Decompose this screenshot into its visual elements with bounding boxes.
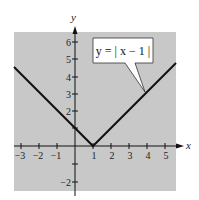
svg-text:−1: −1: [51, 150, 62, 161]
graph: −3 −2 −1 1 2 3 4 5 6 5 4 3 2 −2 y x y = …: [0, 0, 199, 200]
y-axis-arrow-icon: [73, 26, 78, 34]
svg-text:5: 5: [164, 150, 169, 161]
x-axis-arrow-icon: [176, 144, 184, 149]
x-tick-labels: −3 −2 −1 1 2 3 4 5: [15, 150, 169, 161]
y-axis-label: y: [70, 11, 76, 23]
svg-text:6: 6: [66, 37, 71, 48]
svg-text:4: 4: [66, 72, 71, 83]
svg-text:−2: −2: [33, 150, 44, 161]
svg-text:2: 2: [110, 150, 115, 161]
svg-text:−3: −3: [15, 150, 26, 161]
svg-text:1: 1: [92, 150, 97, 161]
svg-text:2: 2: [66, 106, 71, 117]
svg-text:−2: −2: [60, 177, 71, 188]
x-axis-label: x: [185, 139, 191, 151]
svg-text:3: 3: [66, 89, 71, 100]
svg-text:5: 5: [66, 54, 71, 65]
svg-text:4: 4: [146, 150, 151, 161]
svg-text:3: 3: [128, 150, 133, 161]
equation-label: y = | x − 1 |: [96, 44, 150, 58]
